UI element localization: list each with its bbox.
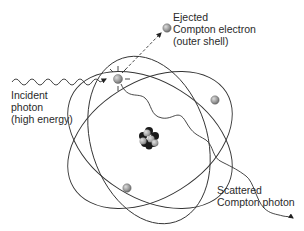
- incident-label-line-3: (high energy): [11, 113, 73, 125]
- ejected-electron-path: [122, 33, 161, 73]
- ejected-label-line-3: (outer shell): [173, 35, 256, 47]
- scattered-label-line-1: Scattered: [217, 184, 295, 196]
- orbit-electron-lower: [123, 184, 131, 192]
- ejected-label-line-1: Ejected: [173, 11, 256, 23]
- incident-label-line-1: Incident: [11, 89, 73, 101]
- incident-label-line-2: photon: [11, 101, 73, 113]
- scattered-photon-label: Scattered Compton photon: [217, 184, 295, 208]
- scattered-label-line-2: Compton photon: [217, 196, 295, 208]
- nucleus-icon: [139, 127, 159, 150]
- orbit-electron-right: [211, 96, 219, 104]
- collision-electron: [114, 75, 123, 84]
- incident-photon-label: Incident photon (high energy): [11, 89, 73, 125]
- ejected-electron-label: Ejected Compton electron (outer shell): [173, 11, 256, 47]
- ejected-label-line-2: Compton electron: [173, 23, 256, 35]
- incident-photon-wave: [12, 79, 106, 85]
- ejected-electron: [163, 24, 171, 32]
